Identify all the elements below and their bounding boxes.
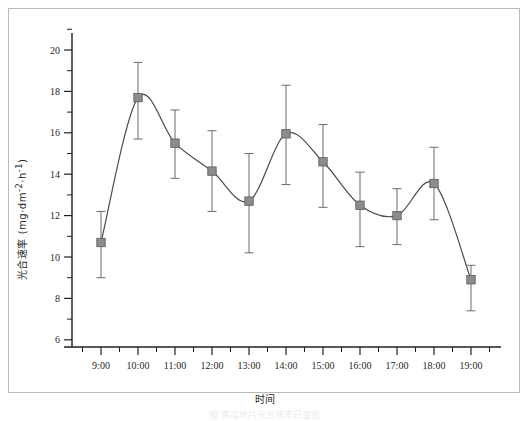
data-point-group: [356, 172, 365, 247]
y-tick-label: 10: [50, 252, 60, 263]
x-tick-label: 10:00: [127, 360, 150, 371]
x-tick-label: 16:00: [349, 360, 372, 371]
x-axis-ticks: 9:00 10:00 11:00 12:00 13:00 14:00 15:00…: [92, 347, 482, 371]
y-axis-units-open: (mg·dm: [17, 192, 28, 238]
y-axis-units-sup2: -1: [14, 163, 24, 172]
data-point-marker: [393, 211, 401, 219]
data-point-group: [282, 85, 291, 184]
data-point-marker: [134, 93, 142, 101]
y-tick-label: 12: [50, 210, 60, 221]
data-point-group: [171, 110, 180, 178]
y-tick-label: 18: [50, 86, 60, 97]
data-point-marker: [356, 201, 364, 209]
x-tick-label: 13:00: [238, 360, 261, 371]
y-tick-label: 6: [55, 334, 60, 345]
data-point-group: [134, 62, 143, 139]
data-series-photosynthesis-rate: [97, 62, 476, 310]
data-point-marker: [467, 276, 475, 284]
x-tick-label: 11:00: [164, 360, 186, 371]
y-axis-units-sup1: -2: [14, 183, 24, 192]
y-tick-label: 16: [50, 127, 60, 138]
data-point-marker: [171, 139, 179, 147]
x-tick-label: 9:00: [92, 360, 110, 371]
x-tick-label: 18:00: [423, 360, 446, 371]
data-point-marker: [208, 167, 216, 175]
y-axis-units-close: ): [17, 159, 28, 163]
y-axis-title: 光合速率 (mg·dm-2·h-1): [14, 262, 29, 280]
data-point-marker: [282, 130, 290, 138]
data-point-marker: [430, 179, 438, 187]
y-axis-title-name: 光合速率: [17, 238, 28, 280]
x-tick-label: 15:00: [312, 360, 335, 371]
y-axis-units-mid: ·h: [17, 172, 28, 183]
x-tick-label: 17:00: [386, 360, 409, 371]
data-point-marker: [245, 197, 253, 205]
y-tick-label: 14: [50, 169, 60, 180]
data-point-group: [245, 154, 254, 253]
x-axis-title: 时间: [0, 391, 529, 406]
data-point-group: [393, 189, 402, 245]
data-point-group: [430, 147, 439, 219]
data-point-group: [208, 131, 217, 212]
figure-caption: 图 黄瓜叶片光合速率日变化: [0, 408, 529, 421]
y-tick-label: 20: [50, 45, 60, 56]
x-tick-label: 12:00: [201, 360, 224, 371]
data-point-marker: [97, 238, 105, 246]
data-point-group: [97, 211, 106, 277]
data-point-marker: [319, 158, 327, 166]
x-tick-label: 14:00: [275, 360, 298, 371]
data-point-group: [319, 125, 328, 208]
x-tick-label: 19:00: [460, 360, 483, 371]
y-tick-label: 8: [55, 293, 60, 304]
